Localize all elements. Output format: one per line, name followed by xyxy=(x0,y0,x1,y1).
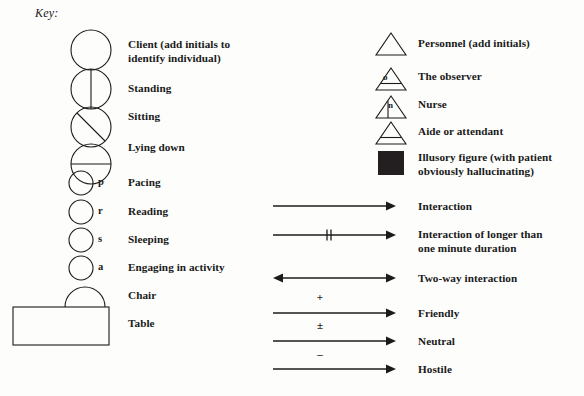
label-activity: Engaging in activity xyxy=(128,261,225,275)
label-nurse: Nurse xyxy=(418,98,447,112)
label-chair: Chair xyxy=(128,289,156,303)
label-client: Client (add initials to identify individ… xyxy=(128,38,230,65)
label-interaction: Interaction xyxy=(418,200,472,214)
label-standing: Standing xyxy=(128,82,171,96)
sign-friendly: + xyxy=(310,291,330,303)
label-sitting: Sitting xyxy=(128,110,160,124)
label-observer: The observer xyxy=(418,70,482,84)
symbol-standing-circle xyxy=(70,68,112,110)
symbol-letter-nurse: n xyxy=(388,100,393,110)
symbol-sitting-circle xyxy=(70,106,112,148)
key-diagram: Key: p r xyxy=(0,0,584,396)
symbol-letter-pacing: p xyxy=(98,176,104,187)
symbol-observer-triangle xyxy=(374,66,408,92)
symbol-arrow-neutral xyxy=(272,334,398,348)
symbol-letter-observer: o xyxy=(383,72,388,82)
symbol-aide-triangle xyxy=(374,120,408,146)
label-pacing: Pacing xyxy=(128,176,161,190)
symbol-pacing-circle xyxy=(68,170,94,196)
symbol-sleeping-circle xyxy=(68,227,94,253)
symbol-arrow-friendly xyxy=(272,306,398,320)
symbol-table-rectangle xyxy=(12,306,110,346)
symbol-client-circle xyxy=(70,29,112,71)
symbol-arrow-interaction-long xyxy=(272,227,398,243)
symbol-reading-circle xyxy=(68,199,94,225)
label-two-way: Two-way interaction xyxy=(418,272,517,286)
label-personnel: Personnel (add initials) xyxy=(418,37,530,51)
label-hostile: Hostile xyxy=(418,363,452,377)
symbol-illusory-square xyxy=(378,151,404,175)
label-friendly: Friendly xyxy=(418,307,459,321)
symbol-personnel-triangle xyxy=(374,31,408,57)
label-interaction-long: Interaction of longer than one minute du… xyxy=(418,228,542,255)
symbol-letter-reading: r xyxy=(98,205,103,216)
symbol-letter-sleeping: s xyxy=(98,233,102,244)
label-reading: Reading xyxy=(128,205,168,219)
label-sleeping: Sleeping xyxy=(128,233,169,247)
sign-neutral: ± xyxy=(310,319,330,331)
label-neutral: Neutral xyxy=(418,335,455,349)
symbol-arrow-two-way xyxy=(272,271,398,285)
symbol-chair-arc xyxy=(63,284,107,308)
symbol-arrow-hostile xyxy=(272,362,398,376)
page-title: Key: xyxy=(35,6,58,21)
symbol-letter-activity: a xyxy=(98,261,103,272)
label-aide: Aide or attendant xyxy=(418,125,503,139)
label-lying-down: Lying down xyxy=(128,141,185,155)
symbol-arrow-interaction xyxy=(272,199,398,213)
label-table: Table xyxy=(128,317,155,331)
label-illusory: Illusory figure (with patient obviously … xyxy=(418,151,552,178)
sign-hostile: – xyxy=(310,348,330,360)
symbol-activity-circle xyxy=(68,255,94,281)
